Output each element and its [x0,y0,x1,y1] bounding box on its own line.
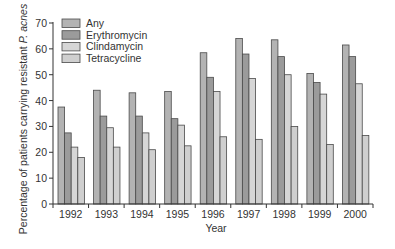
bar-any-1993 [94,90,101,204]
bar-clindamycin-1997 [249,79,256,204]
y-tick-label: 20 [35,146,47,158]
bar-tetracycline-1993 [113,147,120,204]
legend-label-any: Any [86,17,105,29]
legend: AnyErythromycinClindamycinTetracycline [62,17,147,64]
y-axis-title-plain: Percentage of patients carrying resistan… [17,43,29,234]
bar-erythromycin-1994 [136,116,143,204]
bar-erythromycin-1995 [171,119,178,204]
y-tick-label: 40 [35,95,47,107]
bar-chart: 0102030405060701992199319941995199619971… [0,0,395,249]
legend-swatch-tetracycline [62,54,80,63]
bar-erythromycin-1993 [100,116,107,204]
bar-clindamycin-1992 [71,147,78,204]
x-tick-label: 1997 [237,208,261,220]
x-tick-label: 1996 [201,208,225,220]
bar-erythromycin-1998 [278,57,285,204]
bar-any-1992 [58,107,65,204]
bar-any-1994 [129,93,136,204]
bar-clindamycin-1998 [285,75,292,204]
y-tick-label: 10 [35,172,47,184]
bar-clindamycin-1995 [178,125,185,204]
y-tick-label: 60 [35,43,47,55]
x-tick-label: 1994 [130,208,154,220]
x-tick-label: 1998 [272,208,296,220]
x-axis-title: Year [205,222,227,234]
x-tick-label: 1993 [95,208,119,220]
bar-clindamycin-1993 [107,128,114,204]
bar-erythromycin-1999 [313,82,320,204]
y-tick-label: 0 [41,198,47,210]
bar-any-1998 [271,40,278,204]
bar-erythromycin-1992 [65,133,72,204]
bar-tetracycline-1995 [184,146,191,204]
legend-label-tetracycline: Tetracycline [86,52,142,64]
legend-label-clindamycin: Clindamycin [86,40,143,52]
bar-tetracycline-1999 [327,145,334,204]
y-axis-title: Percentage of patients carrying resistan… [17,3,29,234]
y-axis-title-italic: P. acnes [17,3,29,43]
y-tick-label: 70 [35,17,47,29]
legend-label-erythromycin: Erythromycin [86,29,147,41]
bar-erythromycin-1996 [207,77,214,204]
bar-erythromycin-2000 [349,57,356,204]
bar-any-1995 [165,92,172,204]
bar-erythromycin-1997 [242,54,249,204]
bar-clindamycin-1994 [142,133,149,204]
bar-tetracycline-1998 [291,126,298,204]
y-tick-label: 50 [35,69,47,81]
bar-tetracycline-1994 [149,150,156,204]
bar-any-1997 [236,39,243,204]
bar-tetracycline-1992 [78,157,85,204]
bar-any-2000 [342,45,349,204]
x-tick-label: 1992 [59,208,83,220]
y-tick-label: 30 [35,120,47,132]
bar-clindamycin-2000 [356,84,363,204]
x-tick-label: 1999 [308,208,332,220]
bar-tetracycline-1996 [220,137,227,204]
bar-any-1999 [307,73,314,204]
bar-clindamycin-1999 [320,94,327,204]
legend-swatch-any [62,19,80,28]
bar-tetracycline-1997 [256,139,263,204]
x-tick-label: 2000 [344,208,368,220]
bar-clindamycin-1996 [213,92,220,204]
x-tick-label: 1995 [166,208,190,220]
legend-swatch-erythromycin [62,31,80,40]
bar-tetracycline-2000 [362,135,369,204]
legend-swatch-clindamycin [62,42,80,51]
bar-any-1996 [200,53,207,204]
